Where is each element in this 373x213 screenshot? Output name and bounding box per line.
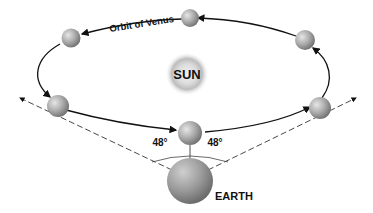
venus-left <box>47 95 69 117</box>
sun: SUN <box>165 52 209 96</box>
venus-top <box>181 9 199 27</box>
venus-top-right <box>295 30 315 50</box>
venus-top-left <box>62 29 81 48</box>
orbit-label: Orbit of Venus <box>109 13 175 34</box>
earth <box>167 158 213 204</box>
venus-right <box>309 97 331 119</box>
angle-right-label: 48° <box>207 137 222 148</box>
venus-orbit-diagram: SUN Orbit of Venus 48° 48° EARTH <box>0 0 373 213</box>
angle-left-label: 48° <box>152 137 167 148</box>
sun-label: SUN <box>173 67 200 82</box>
earth-label: EARTH <box>215 190 253 202</box>
venus-bottom <box>178 121 202 145</box>
